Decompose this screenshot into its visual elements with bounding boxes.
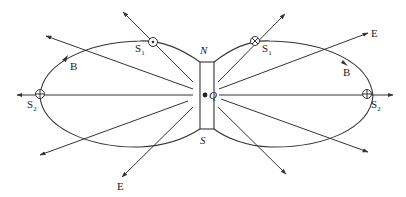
right-b-loop — [214, 41, 373, 147]
e-line-up-left — [123, 12, 193, 82]
e-line-right-lower — [221, 99, 368, 152]
e-line-left-upper — [46, 36, 193, 89]
bar-top-label: N — [199, 44, 208, 56]
e-line-up-right — [218, 14, 285, 82]
e-line-down-left — [122, 107, 193, 177]
e-line-right-upper — [219, 33, 368, 89]
s1-left-label: S1 — [135, 42, 145, 57]
b-label-right: B — [343, 66, 350, 78]
center-label: Q — [209, 89, 217, 101]
b-label-left: B — [70, 60, 77, 72]
e-line-down-right — [218, 107, 286, 174]
field-diagram: N S Q B B E E S1 S1 S2 S2 — [0, 0, 406, 197]
s1-right-symbol-icon — [251, 37, 260, 46]
s1-right-label: S1 — [262, 42, 272, 57]
s1-left-symbol-icon — [149, 38, 158, 47]
left-b-loop — [40, 41, 200, 147]
bar-bottom-label: S — [200, 134, 206, 146]
e-label-top-right: E — [371, 27, 378, 39]
charge-dot-icon — [203, 93, 208, 98]
s2-left-symbol-icon — [36, 90, 45, 99]
s2-right-label: S2 — [371, 98, 381, 113]
e-label-bottom-left: E — [117, 180, 124, 192]
s2-left-label: S2 — [27, 98, 37, 113]
